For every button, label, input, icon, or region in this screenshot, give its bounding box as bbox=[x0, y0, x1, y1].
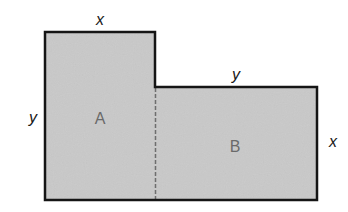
dimension-label-left-a: y bbox=[28, 109, 38, 126]
region-label-b: B bbox=[230, 138, 241, 155]
composite-shape-fill bbox=[45, 32, 317, 200]
dimension-label-top-b: y bbox=[231, 66, 241, 83]
dimension-label-right-b: x bbox=[328, 133, 338, 150]
region-label-a: A bbox=[95, 110, 106, 127]
l-shape-diagram: A B x y y x bbox=[0, 0, 348, 212]
dimension-label-top-a: x bbox=[95, 11, 105, 28]
